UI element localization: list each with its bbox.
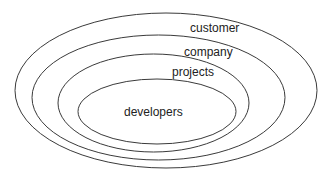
customer-ellipse [15,13,317,168]
developers-label: developers [124,105,183,119]
nested-ellipse-diagram: customer company projects developers [0,0,331,178]
company-label: company [184,45,233,59]
projects-label: projects [172,65,214,79]
customer-label: customer [190,21,239,35]
projects-ellipse [58,54,249,152]
